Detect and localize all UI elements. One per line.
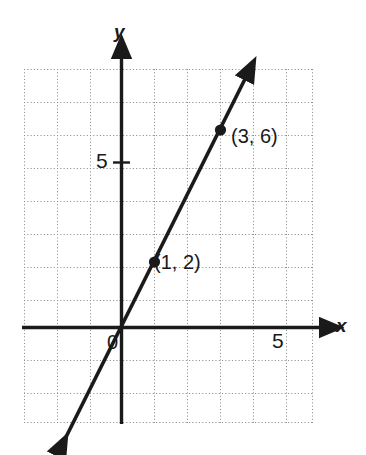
grid-vertical-lines <box>25 69 313 423</box>
point-label-1-2: (1, 2) <box>154 252 201 272</box>
y-axis-label: y <box>114 22 125 41</box>
point-label-3-6: (3, 6) <box>231 126 278 146</box>
graph-canvas <box>0 0 366 455</box>
data-point-3-6 <box>215 124 226 135</box>
x-axis-label: x <box>336 316 347 335</box>
coordinate-plane-figure: y x 5 5 0 (1, 2) (3, 6) <box>0 0 366 455</box>
origin-label: 0 <box>107 332 118 352</box>
grid-horizontal-lines <box>24 70 312 423</box>
y-axis-tick-label-5: 5 <box>96 150 108 171</box>
x-axis-tick-label-5: 5 <box>272 330 284 351</box>
